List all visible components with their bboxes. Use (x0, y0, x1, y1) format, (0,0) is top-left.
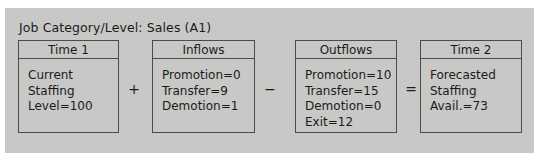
box-time2-body: Forecasted Staffing Avail.=73 (421, 59, 521, 115)
box-outflows: Outflows Promotion=10 Transfer=15 Demoti… (295, 40, 397, 133)
box-time2-line: Staffing (430, 84, 521, 100)
box-inflows-body: Promotion=0 Transfer=9 Demotion=1 (153, 59, 254, 115)
operator-minus: − (260, 82, 280, 96)
box-inflows-line: Promotion=0 (162, 68, 254, 84)
box-time1-line: Current (28, 68, 118, 84)
box-outflows-line: Demotion=0 (305, 99, 396, 115)
box-inflows-line: Demotion=1 (162, 99, 254, 115)
box-inflows-line: Transfer=9 (162, 84, 254, 100)
box-time2-line: Forecasted (430, 68, 521, 84)
staffing-flow-figure: Job Category/Level: Sales (A1) Time 1 Cu… (5, 8, 534, 153)
operator-equals: = (401, 82, 421, 96)
box-inflows: Inflows Promotion=0 Transfer=9 Demotion=… (152, 40, 255, 133)
box-outflows-header: Outflows (296, 41, 396, 59)
box-inflows-header: Inflows (153, 41, 254, 59)
figure-title: Job Category/Level: Sales (A1) (19, 20, 211, 35)
box-time1-body: Current Staffing Level=100 (19, 59, 118, 115)
operator-plus: + (124, 82, 144, 96)
box-outflows-line: Promotion=10 (305, 68, 396, 84)
box-time2-header: Time 2 (421, 41, 521, 59)
box-time1-line: Level=100 (28, 99, 118, 115)
box-time1-header: Time 1 (19, 41, 118, 59)
box-time2-line: Avail.=73 (430, 99, 521, 115)
box-outflows-body: Promotion=10 Transfer=15 Demotion=0 Exit… (296, 59, 396, 130)
box-time1: Time 1 Current Staffing Level=100 (18, 40, 119, 133)
box-time1-line: Staffing (28, 84, 118, 100)
box-time2: Time 2 Forecasted Staffing Avail.=73 (420, 40, 522, 133)
box-outflows-line: Transfer=15 (305, 84, 396, 100)
box-outflows-line: Exit=12 (305, 115, 396, 131)
